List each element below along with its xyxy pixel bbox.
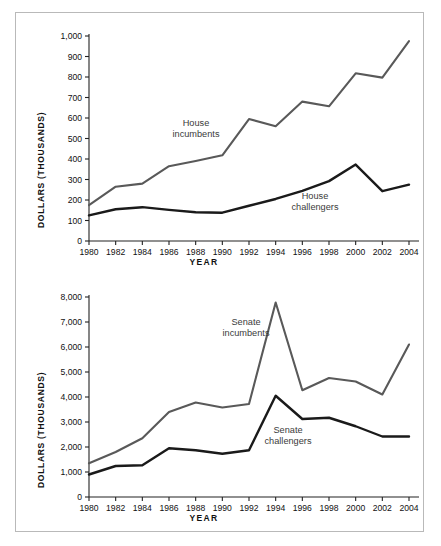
x-tick-label: 2000 (346, 503, 365, 513)
svg-text:incumbents: incumbents (223, 328, 270, 338)
svg-text:Senate: Senate (231, 317, 260, 327)
x-tick-label: 1984 (133, 247, 152, 257)
x-tick-label: 1980 (79, 247, 98, 257)
x-tick-label: 2000 (346, 247, 365, 257)
chart-house-campaign-spending: DOLLARS (THOUSANDS) YEAR 010020030040050… (16, 13, 425, 275)
senate-plot-area: 01,0002,0003,0004,0005,0006,0007,0008,00… (16, 275, 425, 533)
svg-text:challengers: challengers (292, 202, 339, 212)
x-tick-label: 1996 (293, 247, 312, 257)
x-tick-label: 1988 (186, 503, 205, 513)
x-tick-label: 1994 (266, 503, 285, 513)
x-tick-label: 1998 (319, 247, 338, 257)
series-line-house-incumbents (89, 41, 409, 205)
y-tick-label: 4,000 (60, 392, 82, 402)
y-tick-label: 5,000 (60, 367, 82, 377)
y-tick-label: 700 (68, 93, 83, 103)
y-tick-label: 7,000 (60, 317, 82, 327)
senate-x-axis-title: YEAR (34, 513, 374, 523)
y-tick-label: 800 (68, 72, 83, 82)
house-x-axis-title: YEAR (34, 257, 374, 267)
y-tick-label: 3,000 (60, 417, 82, 427)
y-tick-label: 200 (68, 195, 83, 205)
x-tick-label: 1992 (239, 503, 258, 513)
y-tick-label: 0 (77, 236, 82, 246)
senate-y-axis-title: DOLLARS (THOUSANDS) (36, 372, 46, 488)
series-annotation-senate-incumbents: Senateincumbents (223, 317, 270, 338)
series-annotation-house-incumbents: Houseincumbents (173, 118, 220, 139)
x-tick-label: 1982 (106, 503, 125, 513)
svg-text:incumbents: incumbents (173, 129, 220, 139)
y-tick-label: 500 (68, 134, 83, 144)
x-tick-label: 1980 (79, 503, 98, 513)
y-tick-label: 600 (68, 113, 83, 123)
x-tick-label: 2002 (373, 503, 392, 513)
y-tick-label: 100 (68, 216, 83, 226)
x-tick-label: 1984 (133, 503, 152, 513)
y-tick-label: 300 (68, 175, 83, 185)
x-tick-label: 1994 (266, 247, 285, 257)
y-tick-label: 2,000 (60, 442, 82, 452)
x-tick-label: 2004 (399, 247, 418, 257)
y-tick-label: 900 (68, 52, 83, 62)
series-line-senate-challengers (89, 396, 409, 475)
y-tick-label: 6,000 (60, 342, 82, 352)
cropped-header-text (0, 0, 441, 9)
series-annotation-senate-challengers: Senatechallengers (265, 425, 312, 446)
x-tick-label: 1998 (319, 503, 338, 513)
svg-text:challengers: challengers (265, 436, 312, 446)
x-tick-label: 1982 (106, 247, 125, 257)
y-tick-label: 0 (77, 492, 82, 502)
svg-text:Senate: Senate (273, 425, 302, 435)
x-tick-label: 2004 (399, 503, 418, 513)
y-tick-label: 1,000 (60, 467, 82, 477)
y-tick-label: 400 (68, 154, 83, 164)
y-tick-label: 8,000 (60, 292, 82, 302)
series-line-house-challengers (89, 165, 409, 216)
house-plot-area: 01002003004005006007008009001,0001980198… (16, 13, 425, 275)
chart-senate-campaign-spending: DOLLARS (THOUSANDS) YEAR 01,0002,0003,00… (16, 275, 425, 533)
x-tick-label: 1990 (213, 503, 232, 513)
x-tick-label: 1988 (186, 247, 205, 257)
x-tick-label: 2002 (373, 247, 392, 257)
house-y-axis-title: DOLLARS (THOUSANDS) (36, 112, 46, 228)
x-tick-label: 1986 (159, 503, 178, 513)
x-tick-label: 1992 (239, 247, 258, 257)
x-tick-label: 1990 (213, 247, 232, 257)
x-tick-label: 1986 (159, 247, 178, 257)
series-annotation-house-challengers: Housechallengers (292, 191, 339, 212)
svg-text:House: House (183, 118, 210, 128)
x-tick-label: 1996 (293, 503, 312, 513)
figure-frame: DOLLARS (THOUSANDS) YEAR 010020030040050… (15, 12, 424, 532)
y-tick-label: 1,000 (60, 31, 82, 41)
svg-text:House: House (302, 191, 329, 201)
